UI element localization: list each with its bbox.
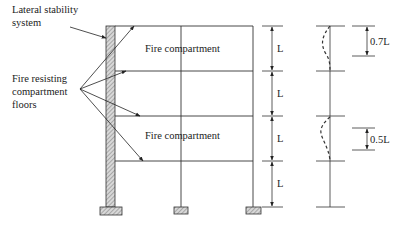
dim-label-1: L [277,43,283,54]
label-lateral-1: Lateral stability [12,4,79,15]
dim-label-4: L [277,178,283,189]
dim-label-2: L [277,88,283,99]
label-compartment-mid: Fire compartment [145,130,220,141]
effective-length-mid: 0.5L [370,134,390,145]
dim-label-3: L [277,133,283,144]
label-fire-1: Fire resisting [12,73,68,84]
foundations [100,207,261,215]
buckling-diagram [316,26,345,207]
frame-diagram: Lateral stability system Fire resisting … [0,0,409,230]
label-fire-3: floors [12,99,37,110]
effective-length-top: 0.7L [370,36,390,47]
label-lateral-2: system [12,17,41,28]
label-compartment-top: Fire compartment [145,43,220,54]
label-fire-2: compartment [12,86,67,97]
